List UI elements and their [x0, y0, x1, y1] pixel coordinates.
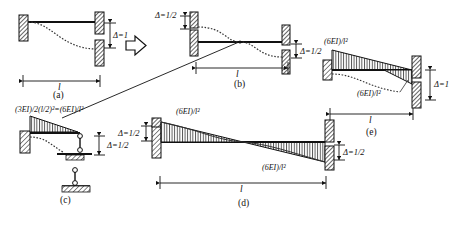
panel-a-right-support-displaced	[95, 40, 104, 66]
panel-a-left-support	[19, 15, 28, 41]
panel-d-delta-left-label: Δ=1/2	[118, 129, 140, 138]
panel-c-pin-mid	[78, 148, 83, 153]
panel-a-caption: (a)	[53, 91, 64, 101]
panel-c-base-hatch	[62, 186, 90, 192]
panel-c	[20, 116, 105, 192]
panel-b-right-support-displaced	[282, 50, 290, 74]
panel-e-caption: (e)	[366, 128, 377, 138]
panel-e-moment-bottom	[384, 70, 412, 84]
formula-leader-line	[62, 42, 239, 118]
panel-a-deflected-shape	[28, 22, 95, 49]
panel-e-span-label: l	[369, 116, 372, 126]
panel-c-moment-diagram	[30, 116, 78, 132]
panel-b-left-support-displaced	[190, 30, 198, 56]
panel-c-formula: (3EI)/2(l/2)²=(6EI)/l²	[15, 106, 83, 114]
panel-a-right-support-original	[95, 12, 104, 34]
panel-e-moment-bottom-leader	[400, 80, 408, 92]
panel-b-delta-right-label: Δ=1/2	[300, 47, 322, 56]
panel-e-moment-top-label: (6EI)/l²	[324, 38, 348, 46]
panel-b-delta-left-label: Δ=1/2	[155, 11, 177, 20]
panel-c-pin-lower	[73, 181, 78, 186]
panel-d-moment-right	[243, 142, 325, 162]
panel-e-moment-top	[332, 50, 412, 70]
block-arrow-right	[126, 36, 146, 55]
panel-d-delta-right-label: Δ=1/2	[343, 148, 365, 157]
panel-d	[141, 118, 345, 189]
panel-d-caption: (d)	[238, 199, 249, 209]
panel-e-left-wall	[323, 60, 332, 80]
panel-e-moment-bottom-label: (6EI)/l²	[357, 90, 381, 98]
panel-e-delta-label: Δ=1	[434, 80, 449, 89]
panel-b-caption: (b)	[234, 80, 245, 90]
panel-c-pin-lower-upper	[73, 168, 78, 173]
panel-b-right-support-original	[282, 25, 290, 45]
panel-d-right-support-original	[325, 120, 334, 142]
panel-e-right-support-original	[412, 56, 421, 78]
panel-a	[19, 12, 116, 87]
panel-c-caption: (c)	[60, 196, 71, 206]
panel-d-moment-bottom-label: (6EI)/l²	[262, 164, 286, 172]
panel-d-right-support-displaced	[325, 146, 334, 170]
panel-c-deflected-shape	[30, 137, 63, 152]
panel-d-moment-top-label: (6EI)/l²	[176, 108, 200, 116]
panel-e-right-support-displaced	[412, 82, 421, 108]
panel-c-mid-support-hatch	[66, 155, 84, 160]
panel-c-delta-label: Δ=1/2	[107, 141, 129, 150]
panel-d-left-wall	[152, 126, 161, 158]
panel-a-delta-label: Δ=1	[113, 31, 128, 40]
panel-c-pin-upper	[78, 134, 83, 139]
panel-d-left-support-block	[152, 118, 161, 127]
panel-c-fixed-wall	[20, 131, 30, 153]
panel-b	[180, 12, 302, 74]
panel-b-left-support-original	[190, 12, 198, 28]
panel-e	[323, 50, 436, 120]
panel-d-span-label: l	[240, 185, 243, 195]
